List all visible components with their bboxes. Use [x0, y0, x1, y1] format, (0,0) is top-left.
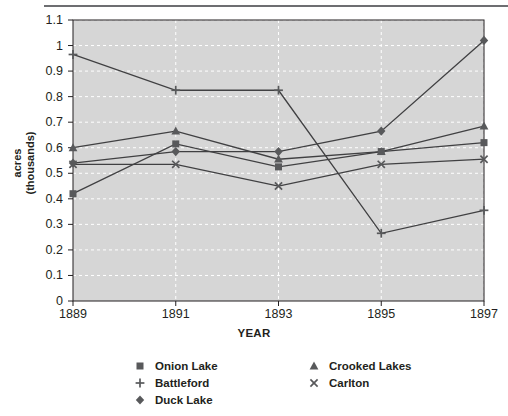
legend-marker-square	[133, 359, 147, 373]
legend-marker-triangle	[307, 359, 321, 373]
data-point-marker-square	[481, 139, 488, 146]
y-tick-label: 0.7	[19, 116, 63, 128]
data-point-marker-square	[172, 140, 179, 147]
y-tick-label: 0.5	[19, 167, 63, 179]
x-axis-title: YEAR	[0, 327, 508, 339]
chart-legend: Onion LakeBattlefordDuck Lake Crooked La…	[0, 358, 508, 408]
y-tick-label: 0.9	[19, 65, 63, 77]
legend-item: Carlton	[305, 375, 411, 390]
data-point-marker-cross	[310, 379, 317, 386]
legend-item: Onion Lake	[131, 358, 218, 373]
data-point-marker-square	[70, 190, 77, 197]
legend-item: Duck Lake	[131, 392, 218, 407]
legend-label: Onion Lake	[155, 360, 218, 372]
x-tick-label: 1895	[351, 307, 411, 321]
y-tick-label: 0.3	[19, 218, 63, 230]
legend-label: Battleford	[155, 377, 209, 389]
legend-marker-diamond	[133, 393, 147, 407]
data-point-marker-diamond	[136, 395, 144, 404]
line-chart-svg	[0, 0, 508, 416]
legend-label: Crooked Lakes	[329, 360, 411, 372]
x-tick-label: 1889	[43, 307, 103, 321]
y-tick-label: 0.1	[19, 269, 63, 281]
legend-marker-cross-icon	[305, 375, 323, 390]
legend-column-left: Onion LakeBattlefordDuck Lake	[131, 358, 218, 409]
y-tick-label: 0.6	[19, 142, 63, 154]
legend-label: Duck Lake	[155, 394, 213, 406]
legend-label: Carlton	[329, 377, 369, 389]
x-tick-label: 1897	[454, 307, 508, 321]
y-tick-label: 0	[19, 295, 63, 307]
data-point-marker-plus	[136, 378, 145, 387]
legend-item: Battleford	[131, 375, 218, 390]
y-tick-label: 0.2	[19, 244, 63, 256]
data-point-marker-square	[275, 163, 282, 170]
legend-column-right: Crooked LakesCarlton	[305, 358, 411, 392]
y-tick-label: 0.4	[19, 193, 63, 205]
x-tick-label: 1893	[249, 307, 309, 321]
y-tick-label: 0.8	[19, 91, 63, 103]
y-tick-label: 1	[19, 40, 63, 52]
legend-marker-plus	[133, 376, 147, 390]
legend-item: Crooked Lakes	[305, 358, 411, 373]
figure: acres (thousands) 00.10.20.30.40.50.60.7…	[0, 0, 508, 416]
legend-marker-diamond-icon	[131, 392, 149, 407]
data-point-marker-triangle	[310, 361, 319, 369]
legend-marker-square-icon	[131, 358, 149, 373]
legend-marker-cross	[307, 376, 321, 390]
x-tick-label: 1891	[146, 307, 206, 321]
y-tick-label: 1.1	[19, 14, 63, 26]
legend-marker-plus-icon	[131, 375, 149, 390]
chart-plot-area	[0, 0, 508, 416]
data-point-marker-square	[137, 362, 144, 369]
legend-marker-triangle-icon	[305, 358, 323, 373]
